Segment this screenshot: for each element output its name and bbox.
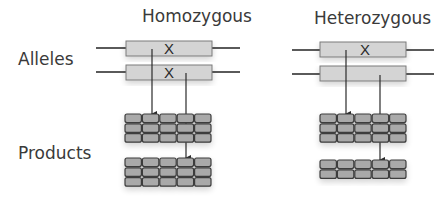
diagram-canvas: X X X: [0, 0, 448, 203]
product-stacks: [125, 114, 406, 186]
mutation-mark: X: [164, 64, 174, 81]
product-stack: [125, 114, 211, 142]
product-stack: [320, 114, 406, 142]
mutation-mark: X: [360, 41, 370, 58]
product-stack: [125, 158, 211, 186]
mutation-mark: X: [164, 40, 174, 57]
product-stack: [320, 160, 406, 178]
heterozygous-alleles: X: [292, 41, 434, 81]
homozygous-alleles: X X: [96, 40, 240, 81]
